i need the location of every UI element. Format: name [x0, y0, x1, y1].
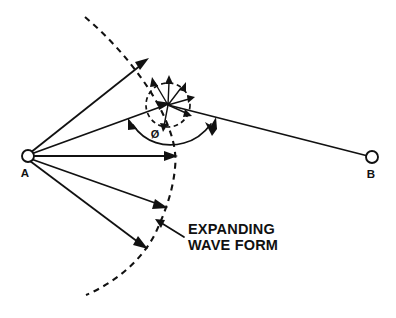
scatter-arrow-up	[168, 82, 169, 105]
scatter-arrow-up-left-head	[150, 77, 158, 87]
ray-lower-inner	[31, 159, 158, 204]
callout-leader-group	[155, 219, 184, 237]
node-A-group: A	[21, 150, 34, 179]
ray-lower-inner-arrowhead	[152, 199, 168, 209]
node-B-label: B	[367, 168, 375, 180]
node-B-group: B	[366, 151, 378, 180]
ray-lower-outer	[30, 161, 138, 242]
node-A-label: A	[21, 167, 29, 179]
ray-upper-outer	[30, 65, 141, 153]
callout-leader-line	[163, 224, 184, 237]
angle-arc-left-arrowhead	[128, 118, 137, 130]
node-A-marker	[22, 150, 34, 162]
diagram-canvas: Ø A B EXPANDING WAVE FORM	[0, 0, 396, 318]
angle-measure-arc	[128, 117, 217, 145]
scatter-arrow-right-head	[187, 95, 195, 103]
ray-to-scatter-point	[31, 106, 163, 154]
wave-propagation-diagram: Ø A B EXPANDING WAVE FORM	[0, 0, 396, 318]
callout-label-line2: WAVE FORM	[188, 237, 278, 253]
scatter-arrow-up-head	[165, 75, 173, 84]
ray-scatter-point-to-B-group	[168, 105, 368, 156]
node-B-marker	[366, 151, 378, 163]
callout-label-line1: EXPANDING	[188, 221, 275, 237]
ray-lower-outer-arrowhead	[133, 236, 148, 249]
ray-scatter-point-to-B	[168, 105, 368, 156]
angle-arc-right-arrowhead	[209, 117, 217, 129]
angle-symbol-label: Ø	[151, 128, 160, 140]
